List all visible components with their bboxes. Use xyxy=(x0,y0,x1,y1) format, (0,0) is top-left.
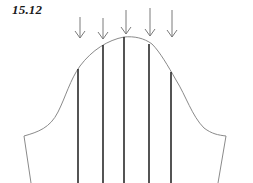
arrow-down-icon xyxy=(167,10,177,37)
arrow-down-icon xyxy=(75,17,85,38)
arrows xyxy=(75,8,177,39)
sleeve-outline xyxy=(24,37,226,183)
arrow-down-icon xyxy=(121,10,131,34)
slash-lines xyxy=(78,37,171,183)
sleeve-pattern-diagram xyxy=(0,0,253,183)
arrow-down-icon xyxy=(145,8,155,36)
arrow-down-icon xyxy=(98,18,108,39)
